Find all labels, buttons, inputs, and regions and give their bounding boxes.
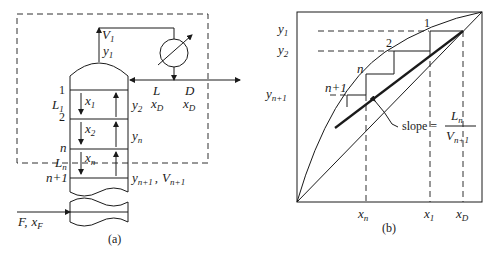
caption-a: (a) [108,232,121,246]
label-xD-reflux: xD [150,96,164,113]
operating-line [335,31,463,128]
label-y2: y2 [276,42,289,59]
slope-label: slope = [402,119,437,133]
label-xD: xD [455,206,469,223]
label-xn: xn [84,150,96,167]
label-x1: x1 [423,206,434,223]
label-feed: F,xF [17,214,43,231]
condenser-icon [158,35,192,67]
stage-label-2: 2 [386,36,392,50]
stage-label-n: n [357,61,364,76]
panel-b-mccabe-thiele: y1 y2 yn+1 xn x1 xD 1 2 n n+1 slope = Ln… [264,12,482,235]
label-yn: yn [130,128,143,145]
caption-b: (b) [382,221,396,235]
slope-denominator: Vn+1 [446,128,469,145]
label-x2: x2 [84,121,96,138]
distillation-diagram: V1 y1 L xD D xD 1 L1 2 x1 y2 x2 yn n xn … [0,0,500,256]
stage-label-1: 1 [424,16,430,30]
column-head [70,63,128,76]
slope-numerator: Ln [450,108,463,125]
label-tray-n: n [60,140,67,155]
panel-a-column-schematic: V1 y1 L xD D xD 1 L1 2 x1 y2 x2 yn n xn … [17,14,240,246]
label-yn1-Vn1: yn+1,Vn+1 [130,170,185,187]
label-xD-product: xD [182,96,196,113]
label-V1: V1 [102,27,114,44]
label-tray-2: 2 [59,110,65,124]
slope-pointer [375,101,398,127]
column-break-top [70,188,128,196]
label-y1: y1 [276,21,288,38]
label-xn: xn [357,206,369,223]
label-tray-1: 1 [59,83,65,97]
stage-label-n-plus-1: n+1 [325,80,347,95]
column-break-bottom [70,198,128,206]
label-y2: y2 [130,97,143,114]
label-x1: x1 [84,93,95,110]
label-y1: y1 [101,43,113,60]
label-tray-n-plus-1: n+1 [46,170,68,185]
label-yn1: yn+1 [264,86,287,103]
